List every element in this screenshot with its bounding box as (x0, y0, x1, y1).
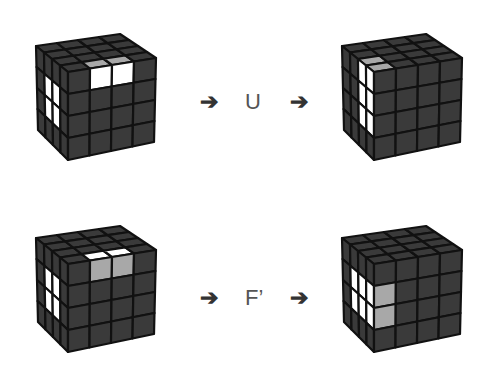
front-face (374, 250, 462, 352)
arrow-right-icon: ➔ (200, 91, 218, 113)
move-label-u: U (245, 91, 261, 113)
arrow-right-icon: ➔ (290, 91, 308, 113)
cube-before-f-prime (28, 222, 164, 358)
arrow-right-icon: ➔ (200, 287, 218, 309)
front-face (68, 58, 156, 160)
cube-after-f-prime (334, 222, 470, 358)
arrow-right-icon: ➔ (290, 287, 308, 309)
cube-before-u (28, 30, 164, 166)
front-face (68, 250, 156, 352)
move-label-f-prime: F’ (245, 287, 263, 309)
front-face (374, 58, 462, 160)
cube-after-u (334, 30, 470, 166)
